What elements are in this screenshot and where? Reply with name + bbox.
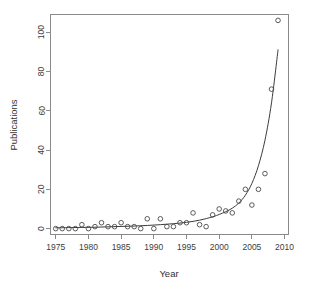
x-tick-label: 1975 <box>46 242 65 252</box>
y-tick-label: 40 <box>37 145 47 155</box>
x-tick-label: 1985 <box>112 242 131 252</box>
y-tick-label: 80 <box>37 66 47 76</box>
publications-per-year-chart: 19751980198519901995200020052010 0204060… <box>0 0 318 293</box>
y-axis-title: Publications <box>8 99 19 150</box>
y-tick-label: 20 <box>37 184 47 194</box>
chart-canvas: 19751980198519901995200020052010 0204060… <box>0 0 318 293</box>
y-tick-label: 100 <box>37 25 47 39</box>
x-tick-label: 2005 <box>242 242 261 252</box>
y-tick-label: 60 <box>37 106 47 116</box>
y-tick-label: 0 <box>37 226 47 231</box>
x-tick-label: 2010 <box>275 242 294 252</box>
x-tick-label: 1995 <box>177 242 196 252</box>
x-tick-label: 1990 <box>144 242 163 252</box>
x-axis-title: Year <box>159 268 178 279</box>
x-tick-label: 2000 <box>210 242 229 252</box>
x-tick-label: 1980 <box>79 242 98 252</box>
